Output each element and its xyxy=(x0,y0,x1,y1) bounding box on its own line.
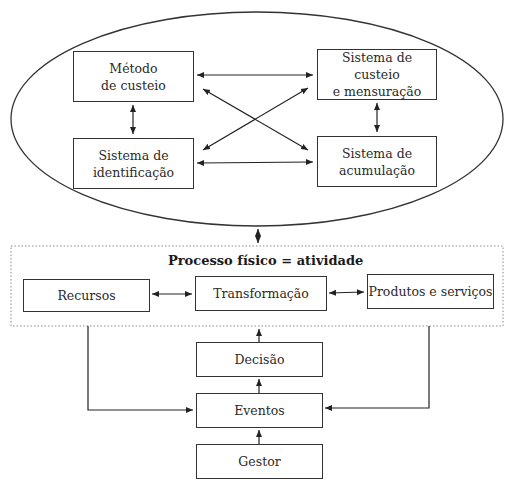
box-sistema-de-custeio: Sistema de custeio e mensuração xyxy=(317,49,437,100)
box-acumulacao-line2: acumulação xyxy=(339,162,415,179)
box-produtos-e-servicos: Produtos e serviços xyxy=(367,274,494,309)
box-recursos-label: Recursos xyxy=(57,287,115,304)
box-produtos-label: Produtos e serviços xyxy=(368,283,492,300)
box-sistema-de-acumulacao: Sistema de acumulação xyxy=(317,136,437,187)
box-gestor: Gestor xyxy=(196,444,323,479)
arrow-recursos-eventos xyxy=(88,326,193,410)
box-decisao-label: Decisão xyxy=(235,351,285,368)
box-transformacao: Transformação xyxy=(195,276,327,311)
box-acumulacao-line1: Sistema de xyxy=(339,145,415,162)
arrow-produtos-eventos xyxy=(325,326,429,408)
box-eventos-label: Eventos xyxy=(234,402,285,419)
box-custeio-line1: Sistema de custeio xyxy=(318,49,436,83)
box-decisao: Decisão xyxy=(196,342,323,377)
box-identificacao-line1: Sistema de xyxy=(93,147,174,164)
box-metodo-line1: Método xyxy=(101,60,166,77)
box-metodo-line2: de custeio xyxy=(101,77,166,94)
box-sistema-de-identificacao: Sistema de identificação xyxy=(73,138,194,189)
box-identificacao-line2: identificação xyxy=(93,164,174,181)
box-recursos: Recursos xyxy=(23,279,150,312)
information-systems-ellipse xyxy=(11,12,503,226)
box-metodo-de-custeio: Método de custeio xyxy=(73,51,194,102)
box-gestor-label: Gestor xyxy=(238,453,280,470)
arrow-identificacao-acumulacao xyxy=(197,162,313,163)
process-title: Processo físico = atividade xyxy=(168,253,363,268)
arrow-transformacao-produtos xyxy=(329,292,364,293)
box-eventos: Eventos xyxy=(196,393,323,428)
box-custeio-line2: e mensuração xyxy=(318,83,436,100)
box-transformacao-label: Transformação xyxy=(213,285,309,302)
